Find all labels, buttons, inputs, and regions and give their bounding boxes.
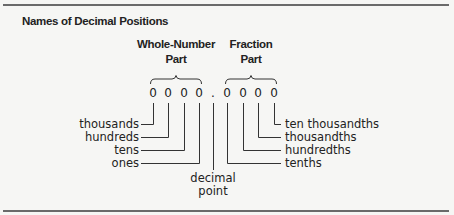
leader-thousandths bbox=[259, 103, 282, 138]
digit-thousands: 0 bbox=[149, 86, 157, 100]
digit-thousandths: 0 bbox=[254, 86, 262, 100]
leader-tens bbox=[141, 103, 185, 151]
leader-hundreds bbox=[141, 103, 169, 138]
label-ones: ones bbox=[40, 157, 139, 169]
leader-ones bbox=[141, 103, 200, 164]
label-thousands: thousands bbox=[40, 118, 139, 130]
whole-brace bbox=[151, 76, 202, 85]
label-thousandths: thousandths bbox=[285, 131, 357, 143]
decimal-label-line2: point bbox=[183, 185, 243, 198]
label-tenths: tenths bbox=[285, 157, 322, 169]
label-decimal-point: decimal point bbox=[183, 172, 243, 198]
leader-tenths bbox=[228, 103, 282, 164]
digit-ten-thousandths: 0 bbox=[270, 86, 278, 100]
leader-ten-thousandths bbox=[275, 103, 282, 125]
digit-hundreds: 0 bbox=[164, 86, 172, 100]
label-hundredths: hundredths bbox=[285, 144, 351, 156]
leader-thousands bbox=[141, 103, 154, 125]
digit-ones: 0 bbox=[195, 86, 203, 100]
label-hundreds: hundreds bbox=[40, 131, 139, 143]
decimal-point-dot: . bbox=[211, 86, 215, 100]
digit-tens: 0 bbox=[180, 86, 188, 100]
digit-hundredths: 0 bbox=[239, 86, 247, 100]
digit-tenths: 0 bbox=[223, 86, 231, 100]
leader-hundredths bbox=[244, 103, 282, 151]
fraction-brace bbox=[226, 76, 277, 85]
label-ten-thousandths: ten thousandths bbox=[285, 118, 379, 130]
label-tens: tens bbox=[40, 144, 139, 156]
